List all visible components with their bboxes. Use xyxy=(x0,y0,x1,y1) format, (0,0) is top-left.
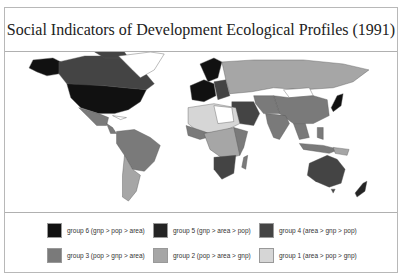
region-new-zealand xyxy=(355,181,367,197)
legend-swatch xyxy=(153,223,168,238)
world-map-svg xyxy=(5,52,397,212)
legend-item-group-1: group 1 (area > pop > gnp) xyxy=(259,248,357,263)
region-southern-africa xyxy=(214,155,236,179)
legend-item-group-3: group 3 (pop > gnp > area) xyxy=(47,248,145,263)
legend-label: group 5 (gnp > area > pop) xyxy=(173,227,251,234)
region-western-europe xyxy=(190,80,216,102)
region-tasmania xyxy=(331,189,335,193)
legend-swatch xyxy=(259,223,274,238)
region-caribbean xyxy=(113,116,127,120)
region-japan xyxy=(331,94,343,112)
region-australia xyxy=(307,155,345,187)
region-south-america-north xyxy=(117,130,161,172)
region-alaska xyxy=(29,58,61,76)
legend-label: group 6 (gnp > pop > area) xyxy=(67,227,145,234)
legend-item-group-4: group 4 (area > gnp > pop) xyxy=(259,223,357,238)
region-scandinavia xyxy=(200,58,222,82)
world-map xyxy=(5,52,397,213)
legend-swatch xyxy=(47,223,62,238)
region-madagascar xyxy=(242,155,248,169)
legend-label: group 3 (pop > gnp > area) xyxy=(67,252,145,259)
legend-swatch xyxy=(153,248,168,263)
region-central-america xyxy=(107,124,117,134)
region-southeast-asia xyxy=(293,124,309,140)
legend-label: group 4 (area > gnp > pop) xyxy=(279,227,357,234)
legend-item-group-6: group 6 (gnp > pop > area) xyxy=(47,223,145,238)
legend-swatch xyxy=(47,248,62,263)
region-papua xyxy=(333,147,349,155)
region-india xyxy=(266,114,290,140)
region-philippines xyxy=(317,128,323,140)
legend-swatch xyxy=(259,248,274,263)
legend-label: group 2 (pop > area > gnp) xyxy=(173,252,251,259)
legend-item-group-2: group 2 (pop > area > gnp) xyxy=(153,248,251,263)
legend-label: group 1 (area > pop > gnp) xyxy=(279,252,357,259)
figure-frame: Social Indicators of Development Ecologi… xyxy=(4,7,398,273)
legend: group 6 (gnp > pop > area) group 5 (gnp … xyxy=(5,213,397,273)
legend-item-group-5: group 5 (gnp > area > pop) xyxy=(153,223,251,238)
map-title: Social Indicators of Development Ecologi… xyxy=(5,8,397,52)
region-indonesia xyxy=(299,143,339,153)
